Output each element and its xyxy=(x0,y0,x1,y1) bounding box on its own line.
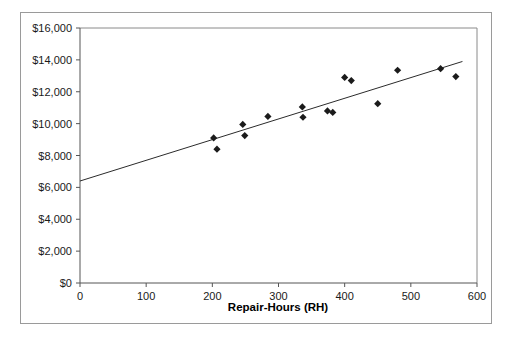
data-point-marker xyxy=(324,107,331,114)
x-tick-label: 500 xyxy=(402,290,420,302)
y-tick-label: $12,000 xyxy=(32,86,72,98)
y-axis-ticks: $0$2,000$4,000$6,000$8,000$10,000$12,000… xyxy=(32,22,80,289)
x-tick-label: 0 xyxy=(77,290,83,302)
data-point-marker xyxy=(213,146,220,153)
data-point-marker xyxy=(394,67,401,74)
y-tick-label: $14,000 xyxy=(32,54,72,66)
x-tick-label: 600 xyxy=(468,290,486,302)
y-tick-label: $6,000 xyxy=(38,181,72,193)
scatter-plot-svg: $0$2,000$4,000$6,000$8,000$10,000$12,000… xyxy=(0,0,513,345)
y-tick-label: $0 xyxy=(60,277,72,289)
data-point-marker xyxy=(299,114,306,121)
x-tick-label: 200 xyxy=(203,290,221,302)
data-point-marker xyxy=(299,103,306,110)
x-axis-ticks: 0100200300400500600 xyxy=(77,283,486,302)
x-axis-title: Repair-Hours (RH) xyxy=(228,301,328,313)
trend-line xyxy=(80,61,462,181)
x-tick-label: 400 xyxy=(335,290,353,302)
data-points xyxy=(210,65,459,153)
data-point-marker xyxy=(437,65,444,72)
data-point-marker xyxy=(348,77,355,84)
data-point-marker xyxy=(452,73,459,80)
data-point-marker xyxy=(239,121,246,128)
y-tick-label: $4,000 xyxy=(38,213,72,225)
y-tick-label: $16,000 xyxy=(32,22,72,34)
y-tick-label: $10,000 xyxy=(32,118,72,130)
data-point-marker xyxy=(341,74,348,81)
data-point-marker xyxy=(241,132,248,139)
y-tick-label: $2,000 xyxy=(38,245,72,257)
chart-figure: $0$2,000$4,000$6,000$8,000$10,000$12,000… xyxy=(0,0,513,345)
trend-line-segment xyxy=(80,61,462,181)
plot-area-border xyxy=(80,28,477,283)
axis-lines xyxy=(80,28,477,283)
y-tick-label: $8,000 xyxy=(38,150,72,162)
x-tick-label: 100 xyxy=(137,290,155,302)
data-point-marker xyxy=(264,113,271,120)
data-point-marker xyxy=(329,109,336,116)
data-point-marker xyxy=(374,100,381,107)
